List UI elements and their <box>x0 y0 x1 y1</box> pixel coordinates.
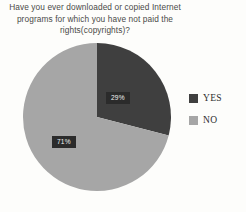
legend-item-no[interactable]: NO <box>189 115 243 125</box>
pie-plot-area: 29% 71% <box>22 42 172 192</box>
legend-swatch-yes-icon <box>189 94 198 103</box>
chart-title: Have you ever downloaded or copied Inter… <box>4 2 186 37</box>
slice-label-no: 71% <box>52 136 76 148</box>
chart-legend: YES NO <box>189 93 243 137</box>
legend-label-no: NO <box>203 115 217 125</box>
legend-item-yes[interactable]: YES <box>189 93 243 103</box>
legend-label-yes: YES <box>203 93 222 103</box>
legend-swatch-no-icon <box>189 116 198 125</box>
pie-svg <box>22 42 172 192</box>
slice-label-yes: 29% <box>106 92 130 104</box>
pie-chart-figure: Have you ever downloaded or copied Inter… <box>0 0 246 212</box>
